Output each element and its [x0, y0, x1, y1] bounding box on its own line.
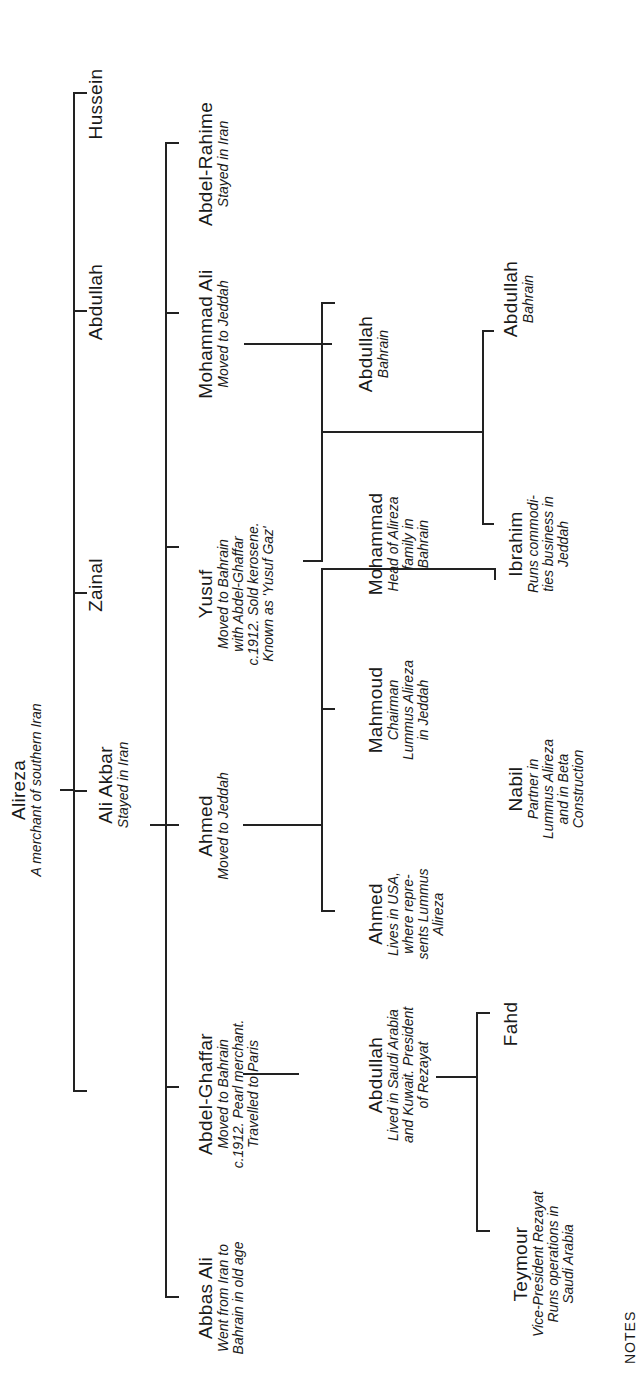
node-hussein: Hussein — [85, 69, 106, 140]
node-desc: Chairman — [386, 660, 401, 760]
node-desc: Lummus Alireza — [401, 660, 416, 760]
node-desc: Partner in — [526, 739, 541, 839]
node-desc: Vice-President Rezayat — [531, 1191, 546, 1337]
node-desc: ties business in — [541, 495, 556, 593]
connector — [476, 1230, 490, 1232]
connector — [243, 1073, 299, 1075]
connector — [165, 1296, 179, 1298]
connector — [321, 302, 335, 304]
node-name: Abdullah — [85, 264, 106, 340]
connector — [60, 789, 74, 791]
node-mahmoud: Mahmoud Chairman Lummus Alireza in Jedda… — [365, 660, 431, 760]
node-name: Abdel-Rahime — [195, 102, 216, 226]
node-abdel-rahime: Abdel-Rahime Stayed in Iran — [195, 102, 231, 226]
node-name: Alireza — [8, 703, 29, 876]
node-desc: Construction — [571, 739, 586, 839]
connector — [476, 1012, 490, 1014]
node-name: Mohammad — [365, 493, 386, 596]
node-teymour: Teymour Vice-President Rezayat Runs oper… — [510, 1191, 576, 1337]
node-name: Ahmed — [195, 772, 216, 879]
node-desc: Bahrain in old age — [231, 1242, 246, 1355]
node-name: Abbas Ali — [195, 1242, 216, 1355]
node-name: Mahmoud — [365, 660, 386, 760]
connector — [321, 708, 335, 710]
node-desc: where repre- — [401, 868, 416, 959]
node-yusuf: Yusuf Moved to Bahrain with Abdel-Ghaffa… — [195, 522, 276, 665]
node-desc: Head of Alireza — [386, 493, 401, 596]
node-desc: Moved to Bahrain — [216, 1020, 231, 1169]
node-desc: Known as 'Yusuf Gaz' — [261, 522, 276, 665]
node-desc: sents Lummus — [416, 868, 431, 959]
node-zainal: Zainal — [85, 558, 106, 612]
connector — [303, 560, 321, 562]
node-desc: Saudi Arabia — [561, 1191, 576, 1337]
connector — [482, 523, 494, 525]
connector — [150, 824, 165, 826]
node-mohammad: Mohammad Head of Alireza family in Bahra… — [365, 493, 431, 596]
node-abbas-ali: Abbas Ali Went from Iran to Bahrain in o… — [195, 1242, 246, 1355]
node-desc: Travelled to Paris — [246, 1020, 261, 1169]
node-desc: Stayed in Iran — [116, 742, 131, 828]
node-abdel-ghaffar: Abdel-Ghaffar Moved to Bahrain c.1912. P… — [195, 1020, 261, 1169]
connector — [165, 312, 179, 314]
node-mohammad-ali: Mohammad Ali Moved to Jeddah — [195, 269, 231, 398]
node-desc: with Abdel-Ghaffar — [231, 522, 246, 665]
node-desc: Lives in USA, — [386, 868, 401, 959]
node-desc: Lummus Alireza — [541, 739, 556, 839]
node-ibrahim: Ibrahim Runs commodi- ties business in J… — [505, 495, 571, 593]
node-desc: Moved to Jeddah — [216, 269, 231, 398]
abdullah-children-bracket — [476, 1013, 478, 1232]
node-desc: Bahrain — [521, 261, 536, 337]
family-tree-diagram: Alireza A merchant of southern Iran Ali … — [0, 0, 637, 1374]
node-name: Fahd — [500, 1002, 521, 1047]
connector — [243, 824, 321, 826]
node-name: Nabil — [505, 739, 526, 839]
connector — [73, 1090, 87, 1092]
gen2-bracket — [165, 142, 167, 1298]
node-desc: A merchant of southern Iran — [29, 703, 44, 876]
connector — [73, 790, 87, 792]
node-desc: Bahrain — [376, 316, 391, 392]
node-name: Hussein — [85, 69, 106, 140]
node-name: Mohammad Ali — [195, 269, 216, 398]
node-name: Ali Akbar — [95, 742, 116, 828]
node-desc: Alireza — [431, 868, 446, 959]
node-desc: of Rezayat — [416, 1007, 431, 1143]
node-abdullah-bahrain-gen4: Abdullah Bahrain — [500, 261, 536, 337]
node-name: Abdullah — [365, 1007, 386, 1143]
node-name: Ibrahim — [505, 495, 526, 593]
node-desc: c.1912. Pearl merchant. — [231, 1020, 246, 1169]
node-ahmed-usa: Ahmed Lives in USA, where repre- sents L… — [365, 868, 446, 959]
node-name: Ahmed — [365, 868, 386, 959]
node-desc: Runs operations in — [546, 1191, 561, 1337]
connector — [165, 142, 179, 144]
node-name: Teymour — [510, 1191, 531, 1337]
node-name: Abdullah — [500, 261, 521, 337]
node-desc: Moved to Bahrain — [216, 522, 231, 665]
node-desc: Moved to Jeddah — [216, 772, 231, 879]
node-alireza: Alireza A merchant of southern Iran — [8, 703, 44, 876]
notes-label: NOTES — [622, 1311, 637, 1364]
node-abdullah-rezayat: Abdullah Lived in Saudi Arabia and Kuwai… — [365, 1007, 431, 1143]
node-name: Yusuf — [195, 522, 216, 665]
node-name: Zainal — [85, 558, 106, 612]
node-desc: and Kuwait. President — [401, 1007, 416, 1143]
connector — [494, 568, 496, 580]
connector — [244, 343, 332, 345]
connector — [165, 824, 179, 826]
connector — [482, 330, 494, 332]
node-ali-akbar: Ali Akbar Stayed in Iran — [95, 742, 131, 828]
node-ahmed-gen2: Ahmed Moved to Jeddah — [195, 772, 231, 879]
ahmed-children-bracket — [321, 570, 323, 912]
connector — [165, 1086, 179, 1088]
node-desc: family in — [401, 493, 416, 596]
node-desc: Jeddah — [556, 495, 571, 593]
node-nabil: Nabil Partner in Lummus Alireza and in B… — [505, 739, 586, 839]
node-fahd: Fahd — [500, 1002, 521, 1047]
connector — [321, 910, 335, 912]
node-name: Abdullah — [355, 316, 376, 392]
node-desc: c.1912. Sold kerosene. — [246, 522, 261, 665]
node-desc: Bahrain — [416, 493, 431, 596]
node-desc: Lived in Saudi Arabia — [386, 1007, 401, 1143]
connector — [436, 1076, 476, 1078]
